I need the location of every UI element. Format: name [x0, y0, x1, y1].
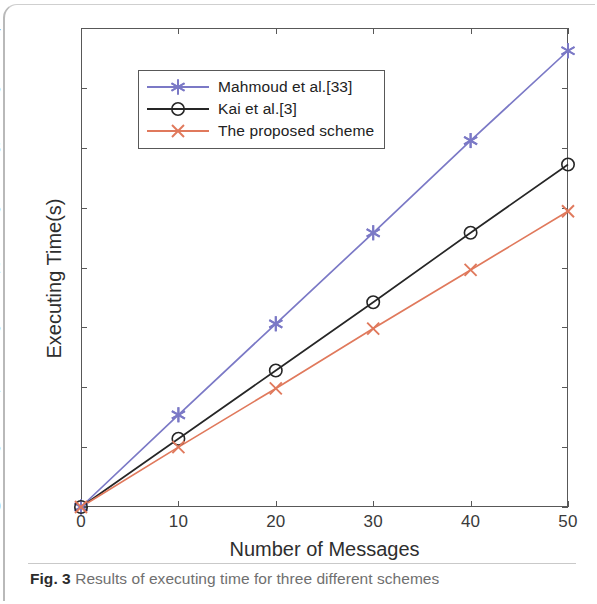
data-point-marker	[172, 125, 184, 137]
data-point-marker	[367, 323, 379, 335]
legend-item[interactable]: Mahmoud et al.[33]	[147, 76, 374, 98]
caption-divider	[28, 563, 576, 564]
figure-caption: Fig. 3 Results of executing time for thr…	[30, 570, 575, 588]
legend-marker-circle-icon	[168, 99, 188, 119]
series-line-1	[81, 165, 568, 507]
caption-text: Results of executing time for three diff…	[71, 570, 440, 587]
y-tick-label: 2	[0, 258, 1, 278]
data-point-marker	[172, 80, 185, 95]
x-axis-label: Number of Messages	[81, 538, 568, 561]
x-tick-label: 20	[266, 512, 285, 532]
y-tick-label: 0	[0, 497, 1, 517]
legend-item[interactable]: Kai et al.[3]	[147, 98, 374, 120]
data-point-marker	[270, 382, 282, 394]
y-tick-label: 1.5	[0, 317, 1, 337]
x-tick-label: 0	[76, 512, 86, 532]
data-point-marker	[562, 205, 574, 217]
y-axis-label: Executing Time(s)	[43, 129, 66, 429]
legend-marker-star-icon	[168, 77, 188, 97]
y-tick-label: 2.5	[0, 198, 1, 218]
y-tick-mark	[562, 507, 568, 508]
legend-swatch	[147, 78, 209, 96]
caption-label: Fig. 3	[30, 570, 71, 587]
x-tick-label: 40	[461, 512, 480, 532]
y-tick-label: 0.5	[0, 437, 1, 457]
y-tick-label: 4	[0, 18, 1, 38]
data-point-marker	[172, 103, 184, 115]
series-line-2	[81, 211, 568, 507]
y-tick-label: 3.5	[0, 78, 1, 98]
x-tick-label: 50	[558, 512, 577, 532]
legend-marker-x-icon	[168, 121, 188, 141]
x-tick-label: 10	[169, 512, 188, 532]
x-tick-mark	[568, 28, 569, 34]
legend-label: The proposed scheme	[218, 122, 374, 140]
legend-label: Mahmoud et al.[33]	[218, 78, 353, 96]
chart-legend: Mahmoud et al.[33]Kai et al.[3]The propo…	[138, 70, 385, 149]
legend-label: Kai et al.[3]	[218, 100, 297, 118]
y-tick-label: 3	[0, 138, 1, 158]
x-tick-label: 30	[364, 512, 383, 532]
y-tick-label: 1	[0, 377, 1, 397]
legend-swatch	[147, 122, 209, 140]
data-point-marker	[465, 264, 477, 276]
data-point-marker	[172, 441, 184, 453]
legend-swatch	[147, 100, 209, 118]
x-tick-mark	[568, 501, 569, 507]
legend-item[interactable]: The proposed scheme	[147, 120, 374, 142]
data-point-marker	[562, 158, 574, 170]
figure-container: 01020304050 00.511.522.533.54 Number of …	[0, 0, 597, 604]
